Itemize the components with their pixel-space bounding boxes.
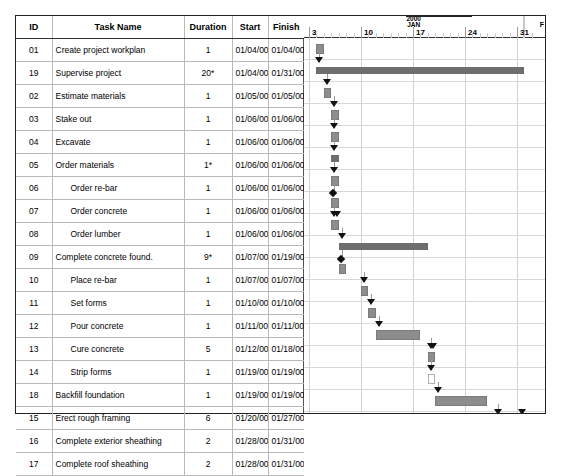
row-id-cell[interactable]: 08 xyxy=(16,223,52,246)
row-finish-cell[interactable]: 01/05/00 xyxy=(268,85,304,108)
row-start-cell[interactable]: 01/06/00 xyxy=(232,177,268,200)
row-duration-cell[interactable]: 1 xyxy=(184,269,232,292)
table-row[interactable]: 06Order re-bar101/06/0001/06/00 xyxy=(16,177,304,200)
table-row[interactable]: 05Order materials1*01/06/0001/06/00 xyxy=(16,154,304,177)
row-taskname-cell[interactable]: Strip forms xyxy=(52,361,184,384)
column-header-taskname[interactable]: Task Name xyxy=(52,16,184,39)
row-taskname-cell[interactable]: Cure concrete xyxy=(52,338,184,361)
row-start-cell[interactable]: 01/19/00 xyxy=(232,384,268,407)
column-header-duration[interactable]: Duration xyxy=(184,16,232,39)
row-id-cell[interactable]: 02 xyxy=(16,85,52,108)
row-finish-cell[interactable]: 01/06/00 xyxy=(268,131,304,154)
column-header-start[interactable]: Start xyxy=(232,16,268,39)
row-start-cell[interactable]: 01/10/00 xyxy=(232,292,268,315)
table-row[interactable]: 17Complete roof sheathing201/28/0001/31/… xyxy=(16,453,304,476)
gantt-bar[interactable] xyxy=(368,308,375,318)
row-taskname-cell[interactable]: Order materials xyxy=(52,154,184,177)
task-table[interactable]: ID Task Name Duration Start Finish 01Cre… xyxy=(16,16,304,476)
row-taskname-cell[interactable]: Excavate xyxy=(52,131,184,154)
row-finish-cell[interactable]: 01/06/00 xyxy=(268,108,304,131)
row-start-cell[interactable]: 01/12/00 xyxy=(232,338,268,361)
row-finish-cell[interactable]: 01/06/00 xyxy=(268,200,304,223)
row-id-cell[interactable]: 15 xyxy=(16,407,52,430)
table-row[interactable]: 14Strip forms101/19/0001/19/00 xyxy=(16,361,304,384)
row-finish-cell[interactable]: 01/06/00 xyxy=(268,223,304,246)
row-id-cell[interactable]: 17 xyxy=(16,453,52,476)
gantt-bar[interactable] xyxy=(361,286,368,296)
table-row[interactable]: 11Set forms101/10/0001/10/00 xyxy=(16,292,304,315)
row-duration-cell[interactable]: 1 xyxy=(184,292,232,315)
row-taskname-cell[interactable]: Backfill foundation xyxy=(52,384,184,407)
gantt-bar[interactable] xyxy=(339,264,346,274)
table-row[interactable]: 01Create project workplan101/04/0001/04/… xyxy=(16,39,304,62)
row-duration-cell[interactable]: 5 xyxy=(184,338,232,361)
table-row[interactable]: 16Complete exterior sheathing201/28/0001… xyxy=(16,430,304,453)
row-duration-cell[interactable]: 6 xyxy=(184,407,232,430)
row-finish-cell[interactable]: 01/11/00 xyxy=(268,315,304,338)
row-finish-cell[interactable]: 01/19/00 xyxy=(268,246,304,269)
row-taskname-cell[interactable]: Create project workplan xyxy=(52,39,184,62)
row-taskname-cell[interactable]: Complete concrete found. xyxy=(52,246,184,269)
row-taskname-cell[interactable]: Erect rough framing xyxy=(52,407,184,430)
row-id-cell[interactable]: 12 xyxy=(16,315,52,338)
gantt-bar[interactable] xyxy=(339,243,428,250)
row-start-cell[interactable]: 01/06/00 xyxy=(232,108,268,131)
row-finish-cell[interactable]: 01/18/00 xyxy=(268,338,304,361)
row-duration-cell[interactable]: 2 xyxy=(184,430,232,453)
row-finish-cell[interactable]: 01/31/00 xyxy=(268,430,304,453)
row-id-cell[interactable]: 03 xyxy=(16,108,52,131)
table-row[interactable]: 08Order lumber101/06/0001/06/00 xyxy=(16,223,304,246)
row-duration-cell[interactable]: 20* xyxy=(184,62,232,85)
row-id-cell[interactable]: 07 xyxy=(16,200,52,223)
gantt-bar[interactable] xyxy=(324,88,331,98)
table-row[interactable]: 12Pour concrete101/11/0001/11/00 xyxy=(16,315,304,338)
row-start-cell[interactable]: 01/28/00 xyxy=(232,453,268,476)
gantt-bar[interactable] xyxy=(331,155,338,162)
gantt-bar[interactable] xyxy=(316,67,524,74)
table-row[interactable]: 09Complete concrete found.9*01/07/0001/1… xyxy=(16,246,304,269)
row-finish-cell[interactable]: 01/27/00 xyxy=(268,407,304,430)
column-header-id[interactable]: ID xyxy=(16,16,52,39)
table-row[interactable]: 13Cure concrete501/12/0001/18/00 xyxy=(16,338,304,361)
row-taskname-cell[interactable]: Order re-bar xyxy=(52,177,184,200)
row-start-cell[interactable]: 01/11/00 xyxy=(232,315,268,338)
row-finish-cell[interactable]: 01/06/00 xyxy=(268,177,304,200)
task-table-pane[interactable]: ID Task Name Duration Start Finish 01Cre… xyxy=(16,16,304,413)
row-id-cell[interactable]: 05 xyxy=(16,154,52,177)
row-start-cell[interactable]: 01/06/00 xyxy=(232,131,268,154)
table-row[interactable]: 07Order concrete101/06/0001/06/00 xyxy=(16,200,304,223)
table-row[interactable]: 04Excavate101/06/0001/06/00 xyxy=(16,131,304,154)
row-finish-cell[interactable]: 01/19/00 xyxy=(268,361,304,384)
row-taskname-cell[interactable]: Complete exterior sheathing xyxy=(52,430,184,453)
row-id-cell[interactable]: 01 xyxy=(16,39,52,62)
row-start-cell[interactable]: 01/07/00 xyxy=(232,269,268,292)
row-duration-cell[interactable]: 1 xyxy=(184,39,232,62)
row-duration-cell[interactable]: 1 xyxy=(184,223,232,246)
gantt-bar[interactable] xyxy=(331,220,338,230)
gantt-bars-area[interactable] xyxy=(304,38,545,413)
table-row[interactable]: 19Supervise project20*01/04/0001/31/00 xyxy=(16,62,304,85)
row-finish-cell[interactable]: 01/19/00 xyxy=(268,384,304,407)
row-id-cell[interactable]: 14 xyxy=(16,361,52,384)
row-start-cell[interactable]: 01/04/00 xyxy=(232,39,268,62)
row-duration-cell[interactable]: 1* xyxy=(184,154,232,177)
row-start-cell[interactable]: 01/19/00 xyxy=(232,361,268,384)
column-header-finish[interactable]: Finish xyxy=(268,16,304,39)
row-start-cell[interactable]: 01/06/00 xyxy=(232,223,268,246)
row-id-cell[interactable]: 18 xyxy=(16,384,52,407)
row-duration-cell[interactable]: 1 xyxy=(184,177,232,200)
row-start-cell[interactable]: 01/20/00 xyxy=(232,407,268,430)
row-duration-cell[interactable]: 1 xyxy=(184,361,232,384)
gantt-bar[interactable] xyxy=(428,374,435,384)
row-id-cell[interactable]: 11 xyxy=(16,292,52,315)
row-id-cell[interactable]: 10 xyxy=(16,269,52,292)
row-taskname-cell[interactable]: Estimate materials xyxy=(52,85,184,108)
row-taskname-cell[interactable]: Order lumber xyxy=(52,223,184,246)
row-duration-cell[interactable]: 9* xyxy=(184,246,232,269)
row-taskname-cell[interactable]: Place re-bar xyxy=(52,269,184,292)
row-start-cell[interactable]: 01/28/00 xyxy=(232,430,268,453)
row-finish-cell[interactable]: 01/04/00 xyxy=(268,39,304,62)
row-id-cell[interactable]: 09 xyxy=(16,246,52,269)
row-duration-cell[interactable]: 1 xyxy=(184,108,232,131)
row-finish-cell[interactable]: 01/31/00 xyxy=(268,453,304,476)
